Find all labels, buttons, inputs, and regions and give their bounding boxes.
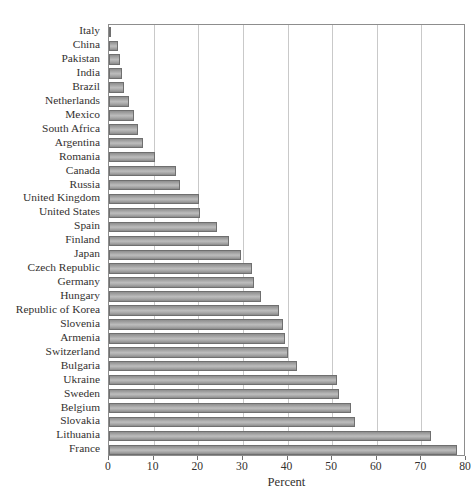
category-label: Germany	[0, 276, 100, 287]
bar	[109, 403, 351, 413]
category-label: Bulgaria	[0, 360, 100, 371]
category-label: Spain	[0, 220, 100, 231]
category-label: Romania	[0, 151, 100, 162]
bar	[109, 431, 431, 441]
x-tick-label: 70	[405, 461, 435, 473]
bar	[109, 82, 124, 92]
plot-area	[108, 24, 465, 456]
x-axis-title: Percent	[108, 475, 465, 490]
bar	[109, 277, 254, 287]
bar	[109, 27, 111, 37]
x-tick-label: 30	[227, 461, 257, 473]
category-label: Italy	[0, 25, 100, 36]
category-label: Mexico	[0, 109, 100, 120]
category-label: France	[0, 443, 100, 454]
category-label: China	[0, 39, 100, 50]
category-label: Ukraine	[0, 374, 100, 385]
x-tick-label: 40	[272, 461, 302, 473]
category-label: Slovenia	[0, 318, 100, 329]
category-label: Lithuania	[0, 429, 100, 440]
category-label: Czech Republic	[0, 262, 100, 273]
bar	[109, 347, 288, 357]
bar	[109, 222, 217, 232]
category-label: South Africa	[0, 123, 100, 134]
category-label: Argentina	[0, 137, 100, 148]
x-tick-label: 50	[316, 461, 346, 473]
category-label: Sweden	[0, 388, 100, 399]
bar	[109, 110, 134, 120]
category-label: Canada	[0, 165, 100, 176]
bar	[109, 68, 122, 78]
category-label: Brazil	[0, 81, 100, 92]
bar	[109, 124, 138, 134]
x-tick-label: 20	[182, 461, 212, 473]
category-label: India	[0, 67, 100, 78]
bar	[109, 236, 229, 246]
bar	[109, 361, 297, 371]
category-label: Russia	[0, 179, 100, 190]
category-label: Armenia	[0, 332, 100, 343]
bar	[109, 180, 180, 190]
bar	[109, 194, 199, 204]
category-label: Finland	[0, 234, 100, 245]
category-label: Hungary	[0, 290, 100, 301]
category-label: Netherlands	[0, 95, 100, 106]
bar	[109, 138, 143, 148]
category-label: Slovakia	[0, 415, 100, 426]
x-tick-label: 10	[138, 461, 168, 473]
bar	[109, 41, 118, 51]
bar	[109, 389, 339, 399]
bar	[109, 375, 337, 385]
x-tick-label: 60	[361, 461, 391, 473]
bar	[109, 208, 200, 218]
bar	[109, 333, 285, 343]
bar	[109, 96, 129, 106]
category-label: Republic of Korea	[0, 304, 100, 315]
bar	[109, 263, 252, 273]
bar	[109, 319, 283, 329]
category-label: United Kingdom	[0, 192, 100, 203]
bars-container	[109, 25, 464, 455]
bar	[109, 166, 176, 176]
bar	[109, 54, 120, 64]
bar	[109, 250, 241, 260]
category-label: United States	[0, 206, 100, 217]
category-axis-labels: ItalyChinaPakistanIndiaBrazilNetherlands…	[0, 24, 104, 456]
x-tick-label: 80	[450, 461, 475, 473]
category-label: Pakistan	[0, 53, 100, 64]
category-label: Japan	[0, 248, 100, 259]
bar	[109, 152, 155, 162]
bar	[109, 445, 457, 455]
bar	[109, 291, 261, 301]
category-label: Switzerland	[0, 346, 100, 357]
horizontal-bar-chart: ItalyChinaPakistanIndiaBrazilNetherlands…	[0, 0, 475, 501]
x-tick-label: 0	[93, 461, 123, 473]
bar	[109, 305, 279, 315]
category-label: Belgium	[0, 402, 100, 413]
bar	[109, 417, 355, 427]
